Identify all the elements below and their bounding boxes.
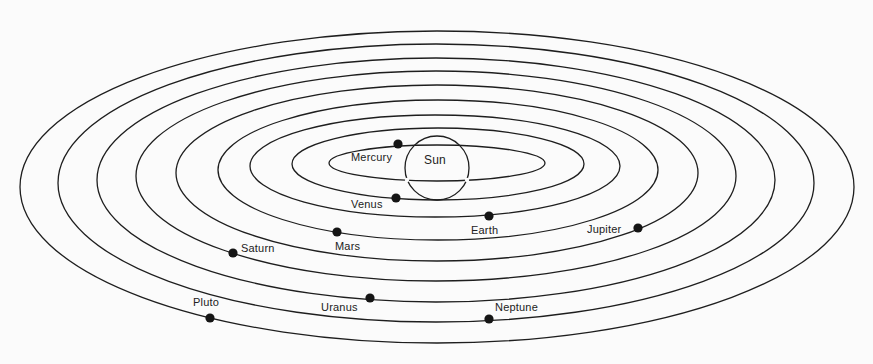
planet-label-uranus: Uranus [321, 302, 358, 313]
planet-dot-mars [332, 227, 341, 236]
orbit-saturn [136, 71, 736, 281]
orbit-pluto [20, 31, 854, 343]
planet-dot-uranus [365, 293, 374, 302]
planet-label-earth: Earth [471, 225, 498, 236]
planet-label-neptune: Neptune [495, 302, 538, 313]
orbit-mars [218, 100, 658, 240]
planet-label-mars: Mars [335, 241, 360, 252]
planet-label-pluto: Pluto [193, 297, 219, 308]
planet-label-mercury: Mercury [351, 152, 392, 163]
planet-dot-mercury [393, 139, 402, 148]
orbit-neptune [58, 44, 814, 322]
planet-dot-pluto [205, 313, 214, 322]
planet-label-venus: Venus [351, 199, 383, 210]
planet-dot-neptune [484, 314, 493, 323]
planet-dot-saturn [228, 248, 237, 257]
orbit-group [20, 31, 854, 343]
planet-dot-earth [484, 211, 493, 220]
sun-outline-gap [465, 178, 469, 182]
sun-label: Sun [424, 154, 446, 166]
solar-system-diagram [0, 0, 873, 364]
planet-dot-group [205, 139, 642, 323]
planet-dot-jupiter [633, 223, 642, 232]
sun-outline-gap [405, 178, 409, 182]
orbit-uranus [97, 58, 775, 302]
planet-dot-venus [391, 193, 400, 202]
planet-label-saturn: Saturn [241, 243, 275, 254]
planet-label-jupiter: Jupiter [587, 224, 621, 235]
